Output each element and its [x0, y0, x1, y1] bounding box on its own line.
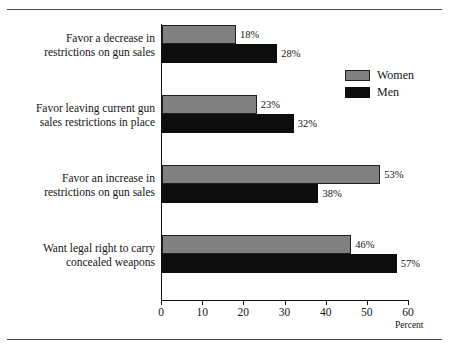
bar-men — [162, 114, 294, 133]
category-label: Favor a decrease inrestrictions on gun s… — [8, 32, 155, 59]
bar-value-label: 57% — [401, 258, 420, 269]
x-tick — [161, 300, 162, 305]
x-tick-label: 40 — [311, 306, 341, 318]
bar-value-label: 53% — [384, 169, 403, 180]
bar-women — [162, 165, 380, 184]
plot-area: Favor a decrease inrestrictions on gun s… — [0, 0, 449, 355]
x-tick-label: 10 — [187, 306, 217, 318]
x-axis-title: Percent — [395, 320, 424, 330]
x-tick — [202, 300, 203, 305]
legend-item-women: Women — [345, 68, 414, 83]
x-tick — [408, 300, 409, 305]
bar-women — [162, 95, 257, 114]
bar-value-label: 32% — [298, 118, 317, 129]
category-label: Want legal right to carryconcealed weapo… — [8, 242, 155, 269]
bar-women — [162, 235, 351, 254]
x-tick — [326, 300, 327, 305]
legend-swatch-men — [345, 87, 370, 98]
x-tick — [243, 300, 244, 305]
bar-value-label: 18% — [240, 29, 259, 40]
chart-legend: WomenMen — [345, 68, 414, 102]
bar-value-label: 23% — [261, 99, 280, 110]
x-tick — [285, 300, 286, 305]
bar-men — [162, 184, 318, 203]
bar-men — [162, 44, 277, 63]
legend-label: Women — [377, 68, 414, 83]
x-tick-label: 0 — [146, 306, 176, 318]
x-tick-label: 30 — [270, 306, 300, 318]
legend-item-men: Men — [345, 85, 414, 100]
bar-men — [162, 254, 397, 273]
chart-figure: Favor a decrease inrestrictions on gun s… — [0, 0, 449, 355]
x-tick — [367, 300, 368, 305]
category-label: Favor an increase inrestrictions on gun … — [8, 172, 155, 199]
bar-women — [162, 25, 236, 44]
bar-value-label: 46% — [355, 239, 374, 250]
legend-label: Men — [377, 85, 399, 100]
bar-value-label: 38% — [322, 188, 341, 199]
legend-swatch-women — [345, 70, 370, 81]
bar-value-label: 28% — [281, 48, 300, 59]
x-tick-label: 20 — [228, 306, 258, 318]
x-tick-label: 60 — [393, 306, 423, 318]
category-label: Favor leaving current gunsales restricti… — [8, 102, 155, 129]
x-tick-label: 50 — [352, 306, 382, 318]
